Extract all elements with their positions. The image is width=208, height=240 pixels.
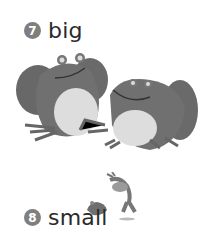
jumping-frog-icon	[107, 172, 135, 221]
item-big-label: 7 big	[24, 18, 83, 43]
number-badge: 8	[24, 209, 41, 226]
word-big: big	[48, 18, 83, 43]
frog-icon	[105, 79, 198, 150]
word-small: small	[48, 205, 108, 230]
number-badge: 7	[24, 22, 41, 39]
big-frogs-illustration	[10, 50, 200, 160]
frog-icon	[16, 53, 108, 140]
item-small-label: 8 small	[24, 205, 108, 230]
